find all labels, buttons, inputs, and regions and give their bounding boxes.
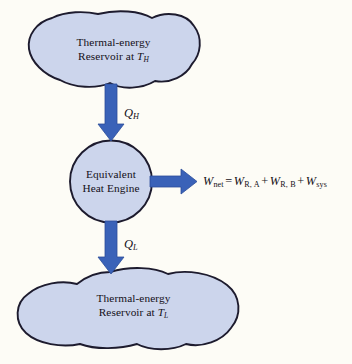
heat-input-arrow (98, 84, 124, 141)
cold-reservoir-shape (18, 268, 239, 349)
heat-output-arrow (98, 221, 124, 274)
diagram-canvas (0, 0, 352, 364)
heat-engine-shape (70, 141, 152, 223)
thermodynamics-diagram: Thermal-energy Reservoir at TH Equivalen… (0, 0, 352, 364)
hot-reservoir-shape (29, 11, 200, 87)
net-work-output-arrow (150, 169, 197, 194)
